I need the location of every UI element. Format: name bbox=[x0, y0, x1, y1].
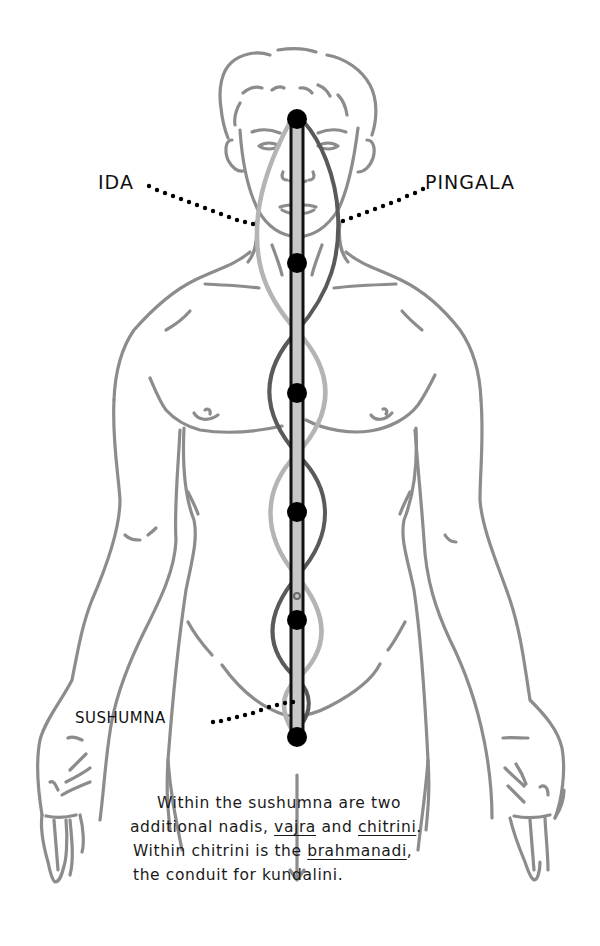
arm-right-outer bbox=[480, 400, 564, 818]
ida-leader-dots bbox=[147, 184, 255, 226]
caption-text: and bbox=[316, 818, 358, 836]
caption-line-4: the conduit for kundalini. bbox=[130, 863, 490, 887]
chakra-node-root bbox=[287, 727, 307, 747]
hand-left-knuckles bbox=[46, 815, 76, 817]
chakra-node-crown bbox=[287, 109, 307, 129]
caption-text: additional nadis, bbox=[130, 818, 274, 836]
ida-label: IDA bbox=[98, 171, 134, 193]
hand-left-thumb bbox=[50, 782, 58, 790]
caption: Within the sushumna are two additional n… bbox=[130, 791, 490, 887]
chakra-node-throat bbox=[287, 253, 307, 273]
elbow-right bbox=[445, 535, 456, 542]
sushumna-label: SUSHUMNA bbox=[75, 709, 166, 727]
hand-right-knuckles bbox=[514, 815, 550, 817]
deltoid-mark-left bbox=[166, 311, 190, 330]
pingala-label: PINGALA bbox=[425, 171, 515, 193]
shoulder-left bbox=[114, 252, 250, 400]
caption-line-3: Within chitrini is the brahmanadi, bbox=[130, 839, 490, 863]
hand-right-lines bbox=[503, 738, 528, 802]
nipple-left bbox=[194, 409, 218, 419]
term-chitrini: chitrini bbox=[358, 818, 416, 836]
chakra-node-sacral bbox=[287, 610, 307, 630]
term-vajra: vajra bbox=[274, 818, 316, 836]
pectoral-left bbox=[150, 378, 282, 432]
chakra-node-solar bbox=[287, 502, 307, 522]
caption-text: , bbox=[407, 842, 413, 860]
caption-line-1: Within the sushumna are two bbox=[130, 791, 490, 815]
chakra-node-heart bbox=[287, 383, 307, 403]
shoulder-right bbox=[346, 252, 481, 400]
hand-left-lines bbox=[62, 737, 90, 795]
neck-right bbox=[339, 222, 348, 262]
hand-right bbox=[510, 790, 564, 880]
clavicle-left bbox=[205, 284, 259, 288]
nipple-right bbox=[371, 409, 392, 419]
term-brahmanadi: brahmanadi bbox=[307, 842, 407, 860]
torso-right bbox=[403, 428, 429, 830]
eyebrow-right bbox=[318, 130, 346, 133]
deltoid-mark-right bbox=[402, 311, 422, 330]
caption-line-2: additional nadis, vajra and chitrini. bbox=[130, 815, 490, 839]
ear-right bbox=[358, 140, 374, 172]
caption-text: . bbox=[416, 818, 422, 836]
hand-left bbox=[41, 815, 83, 882]
elbow-left bbox=[125, 528, 156, 540]
neck-muscle-left bbox=[272, 245, 282, 275]
neck-muscle-right bbox=[312, 245, 322, 275]
clavicle-right bbox=[334, 284, 396, 288]
pingala-leader-dots bbox=[341, 187, 425, 223]
eyebrow-left bbox=[252, 130, 280, 133]
caption-text: Within chitrini is the bbox=[133, 842, 307, 860]
hand-right-thumb bbox=[540, 786, 548, 795]
sushumna-column bbox=[291, 119, 303, 737]
